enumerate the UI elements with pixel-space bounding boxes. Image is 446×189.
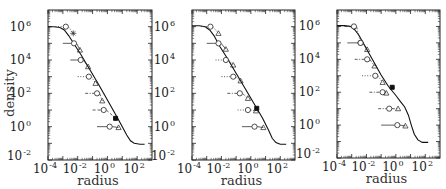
extra-1-filled-marker [390, 85, 394, 89]
series-4-circle-marker [373, 73, 378, 78]
y-tick-label: 10-2 [7, 148, 31, 163]
series-1-circle-marker [351, 24, 356, 29]
y-tick-label: 104 [10, 52, 31, 67]
series-1-circle-marker [63, 24, 68, 29]
y-tick-label: 106 [10, 19, 31, 34]
y-tick-label: 102 [299, 84, 320, 99]
panel-1: 10-410-210010210-2100102104106radiusdens… [2, 10, 152, 188]
series-3-circle-marker [78, 57, 83, 62]
panel-3: 10-410-210010210-2100102104106radius [296, 10, 440, 186]
y-tick-label: 104 [154, 52, 175, 67]
series-3-circle-marker [365, 57, 370, 62]
y-tick-label: 100 [299, 117, 320, 132]
y-tick-label: 104 [299, 51, 320, 66]
y-tick-label: 100 [154, 119, 175, 134]
y-tick-label: 10-2 [151, 148, 175, 163]
y-tick-label: 10-2 [296, 146, 320, 161]
x-tick-label: 102 [412, 159, 433, 174]
series-5-link [100, 93, 103, 101]
y-tick-label: 106 [154, 19, 175, 34]
extra-1-filled-marker [255, 106, 259, 110]
panel-2: 10-410-210010210-2100102104106radius [151, 10, 295, 188]
series-5-circle-marker [237, 91, 242, 96]
density-profile-figure: 10-410-210010210-2100102104106radiusdens… [0, 0, 446, 189]
series-7-circle-marker [395, 123, 400, 128]
series-6-triangle-marker [395, 106, 400, 111]
series-7-circle-marker [252, 124, 257, 129]
series-6-circle-marker [101, 107, 106, 112]
series-7-circle-marker [107, 124, 112, 129]
y-axis-label: density [2, 68, 17, 116]
series-6-circle-marker [387, 106, 392, 111]
density-profile-curve [192, 26, 286, 144]
series-1-circle-marker [208, 24, 213, 29]
x-tick-label: 10-4 [322, 159, 346, 174]
series-4-circle-marker [86, 74, 91, 79]
y-tick-label: 106 [299, 18, 320, 33]
x-tick-label: 10-4 [177, 161, 201, 176]
series-2-circle-marker [71, 41, 76, 46]
series-2-circle-marker [216, 41, 221, 46]
y-tick-label: 102 [154, 85, 175, 100]
plot-frame [48, 10, 152, 160]
series-2-circle-marker [358, 40, 363, 45]
x-axis-label: radius [366, 171, 408, 186]
x-axis-label: radius [221, 173, 263, 188]
series-6-filled-marker [114, 116, 118, 120]
series-5-circle-marker [94, 91, 99, 96]
series-3-circle-marker [223, 57, 228, 62]
y-tick-label: 100 [10, 119, 31, 134]
series-1-star-marker [70, 30, 76, 36]
plot-frame [337, 10, 440, 158]
series-6-circle-marker [245, 107, 250, 112]
x-tick-label: 102 [123, 161, 144, 176]
x-axis-label: radius [77, 173, 119, 188]
x-tick-label: 10-4 [33, 161, 57, 176]
series-4-circle-marker [231, 74, 236, 79]
x-tick-label: 102 [267, 161, 288, 176]
